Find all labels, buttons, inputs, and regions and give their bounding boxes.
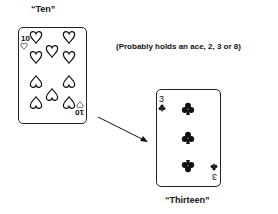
three-of-clubs-pips: 3 3 xyxy=(159,94,218,182)
rank-three-top: 3 xyxy=(159,94,164,104)
rank-three-bottom: 3 xyxy=(212,172,217,182)
rank-ten-bottom: 10 xyxy=(75,108,84,117)
arrow xyxy=(98,117,148,142)
ten-of-hearts-pips: 10 10 xyxy=(21,32,84,117)
rank-ten-top: 10 xyxy=(21,34,30,43)
diagram-graphics: 10 10 3 3 xyxy=(0,0,278,214)
